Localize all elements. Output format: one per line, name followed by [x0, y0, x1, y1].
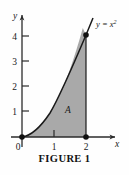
y-tick-label-4: 4 [12, 32, 17, 42]
x-axis-label: x [114, 139, 120, 149]
x-tick-label-1: 1 [52, 142, 57, 152]
curve-equation-exponent: 2 [114, 19, 117, 25]
y-tick-label-3: 3 [12, 57, 17, 67]
figure-container: 4 3 2 1 0 1 2 y x A y = x2 FIGURE 1 [0, 0, 129, 175]
point-origin [19, 134, 25, 140]
figure-caption: FIGURE 1 [0, 153, 129, 164]
y-tick-label-2: 2 [12, 82, 17, 92]
y-axis-label: y [12, 11, 18, 21]
x-tick-label-2: 2 [84, 142, 89, 152]
curve-equation-base: y = x [95, 19, 114, 29]
plot-area: 4 3 2 1 0 1 2 y x A y = x2 [0, 0, 129, 152]
region-label-A: A [64, 105, 71, 115]
curve-equation-label: y = x2 [95, 19, 117, 29]
x-tick-label-0: 0 [16, 142, 21, 152]
point-x2-y0 [83, 134, 89, 140]
y-tick-label-1: 1 [12, 107, 17, 117]
point-x2-y4 [83, 32, 89, 38]
parabola-plot-svg: 4 3 2 1 0 1 2 y x A y = x2 [0, 0, 129, 152]
